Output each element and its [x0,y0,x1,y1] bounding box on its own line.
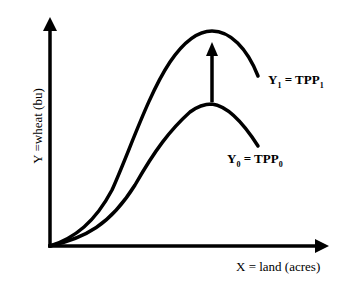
label-y1-eq-sub: 1 [320,81,324,90]
diagram-graphics [0,0,340,290]
x-axis-label: X = land (acres) [236,259,320,275]
label-y0-main: Y [227,151,236,166]
y-axis-label: Y =wheat (bu) [30,66,46,186]
shift-arrow-up-icon [206,42,218,56]
label-y1-eq: = TPP [281,72,319,87]
tpp-diagram: Y =wheat (bu) X = land (acres) Y1 = TPP1… [0,0,340,290]
label-y1-main: Y [268,72,277,87]
y-axis-arrowhead-icon [43,17,57,31]
tpp0-curve [50,104,258,246]
tpp1-label: Y1 = TPP1 [268,72,324,90]
tpp0-label: Y0 = TPP0 [227,151,283,169]
x-axis-arrowhead-icon [315,239,329,253]
label-y0-eq: = TPP [240,151,278,166]
tpp1-curve [50,31,258,246]
label-y0-eq-sub: 0 [279,160,283,169]
